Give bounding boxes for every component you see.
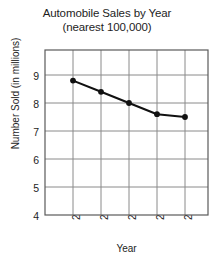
data-point-2007 (98, 89, 104, 95)
data-point-2010 (182, 114, 188, 120)
data-point-2006 (70, 78, 76, 84)
plot-area (0, 0, 214, 261)
chart-container: Automobile Sales by Year (nearest 100,00… (0, 0, 214, 261)
data-point-2009 (154, 111, 160, 117)
data-point-2008 (126, 100, 132, 106)
